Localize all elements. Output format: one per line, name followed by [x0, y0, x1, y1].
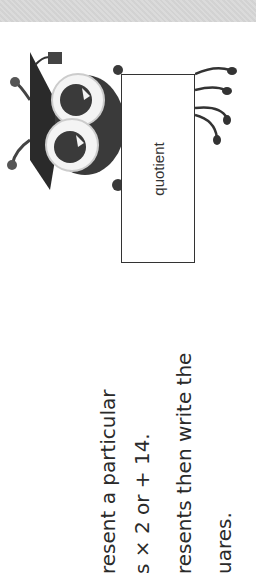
bug-legs-icon	[195, 60, 255, 160]
top-gray-band	[0, 0, 256, 22]
instruction-line-1: resent a particular	[96, 389, 120, 574]
instruction-line-4: uares.	[212, 512, 236, 574]
instruction-line-3: resents then write the	[172, 353, 196, 574]
quotient-card: quotient	[121, 74, 195, 263]
bug-mascot-icon	[0, 40, 130, 200]
card-label: quotient	[150, 142, 167, 195]
instruction-line-2: s × 2 or + 14.	[130, 433, 154, 574]
